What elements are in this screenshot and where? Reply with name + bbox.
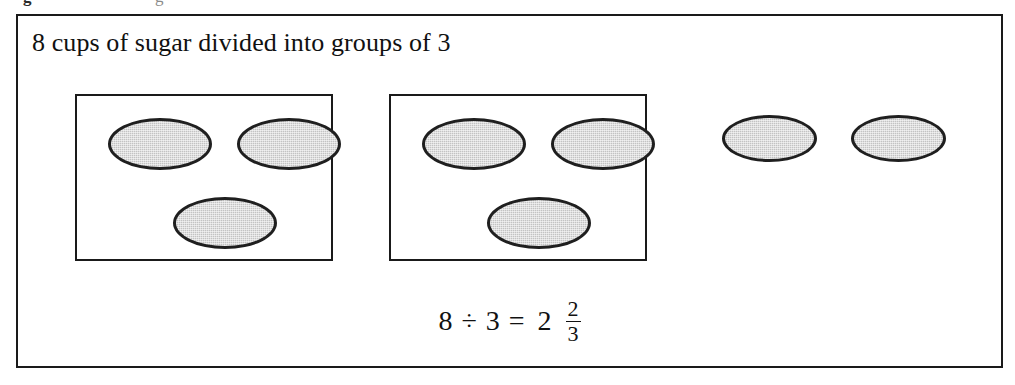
cup-ellipse-6 (487, 197, 591, 249)
cropped-caption-artifact: g g (0, 0, 1015, 12)
figure-frame: 8 cups of sugar divided into groups of 3… (16, 14, 1003, 368)
cup-ellipse-4 (422, 118, 526, 170)
cup-ellipse-5 (551, 118, 655, 170)
caption-fragment-left: g (23, 0, 32, 7)
cup-ellipse-2 (237, 118, 341, 170)
quotient-whole-number: 2 (538, 305, 552, 337)
cup-ellipse-1 (108, 118, 212, 170)
caption-fragment-right: g (155, 0, 164, 7)
division-equation: 8 ÷ 3 = 2 2 3 (18, 297, 1001, 345)
equals-symbol-icon: = (509, 305, 525, 337)
cup-ellipse-3 (173, 197, 277, 249)
fraction-numerator: 2 (566, 298, 581, 322)
cup-ellipse-8-remainder (851, 115, 946, 162)
equation-divisor: 3 (486, 305, 500, 337)
figure-title: 8 cups of sugar divided into groups of 3 (32, 28, 451, 58)
cup-ellipse-7-remainder (722, 115, 817, 162)
group-box-2 (389, 94, 647, 261)
quotient-fraction: 2 3 (566, 298, 581, 346)
equation-dividend: 8 (438, 305, 452, 337)
fraction-denominator: 3 (566, 322, 581, 345)
divide-symbol-icon: ÷ (461, 305, 476, 337)
group-box-1 (75, 94, 333, 261)
